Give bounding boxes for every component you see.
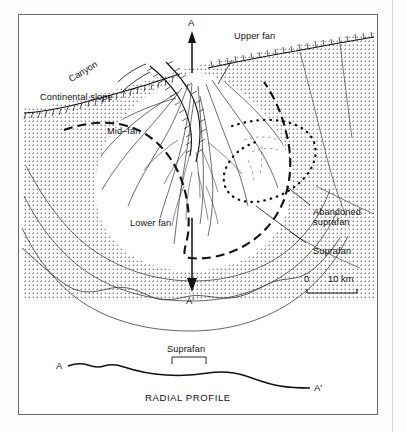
label-profile-end: A' [314,382,322,393]
label-profile-start: A [56,360,62,371]
label-lower-fan: Lower fan [130,218,171,229]
label-mid-fan: Mid–fan [107,126,140,137]
label-abandoned-suprafan: Abandoned suprafan [313,207,361,227]
profile-line [68,364,310,388]
label-section-start-map: A [188,17,194,28]
scale-bar-graphic [305,287,369,301]
profile-caption: RADIAL PROFILE [145,392,231,403]
scale-bar-max-label: 10 km [328,274,354,285]
figure-root: Canyon Continental slope Upper fan Mid–f… [0,0,406,432]
radial-profile [68,357,310,388]
label-upper-fan: Upper fan [234,31,275,42]
suprafan-bracket [172,357,206,364]
scale-bar: 0 10 km [304,274,368,300]
label-abandoned-suprafan-line1: Abandoned [313,207,361,217]
label-section-end-map: A' [186,295,194,306]
label-suprafan-map: Suprafan [313,246,351,257]
label-abandoned-suprafan-line2: suprafan [313,217,350,227]
scale-bar-min-label: 0 [304,274,309,285]
label-suprafan-profile: Suprafan [167,344,205,355]
label-continental-slope: Continental slope [40,92,113,103]
